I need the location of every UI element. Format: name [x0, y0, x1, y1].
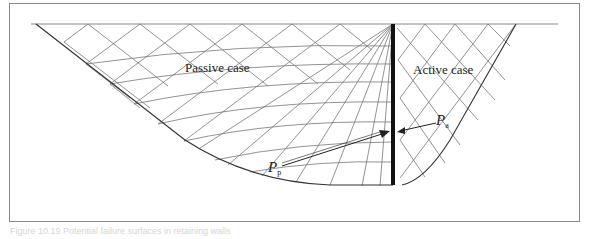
active-case-label: Active case: [413, 62, 473, 78]
passive-case-label: Passive case: [185, 60, 250, 76]
active-force-label: Pa: [436, 112, 449, 130]
active-force-arrowhead: [397, 127, 405, 134]
active-failure-surface: [402, 24, 516, 185]
failure-surface-diagram: [0, 0, 589, 239]
passive-force-label: Pp: [268, 159, 281, 177]
passive-force-arrowhead: [379, 130, 390, 138]
passive-grid: [64, 24, 393, 186]
active-grid: [397, 24, 516, 178]
figure-caption: Figure 10.19 Potential failure surfaces …: [10, 226, 231, 236]
passive-force-arrow: [282, 133, 385, 166]
